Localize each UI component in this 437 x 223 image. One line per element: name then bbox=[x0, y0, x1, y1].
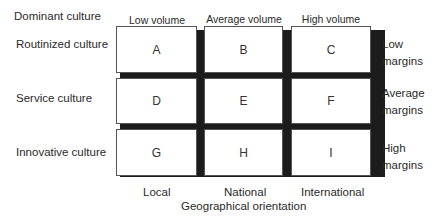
cell-e: E bbox=[204, 78, 283, 124]
cell-i: I bbox=[291, 129, 371, 176]
cell-b: B bbox=[204, 26, 283, 73]
cell-f: F bbox=[291, 78, 371, 124]
row-label-routinized: Routinized culture bbox=[16, 38, 108, 50]
margin-label-low-line2: margins bbox=[382, 53, 423, 70]
cell-h: H bbox=[204, 129, 283, 176]
margin-label-high-line1: High bbox=[382, 140, 423, 157]
row-label-service: Service culture bbox=[16, 92, 92, 104]
geo-label-national: National bbox=[224, 186, 266, 198]
cell-a: A bbox=[116, 26, 197, 73]
margin-label-low: Low margins bbox=[382, 36, 423, 70]
row-label-innovative: Innovative culture bbox=[16, 146, 106, 158]
cell-g: G bbox=[116, 129, 197, 176]
margin-label-average-line2: margins bbox=[382, 102, 425, 119]
margin-label-average-line1: Average bbox=[382, 85, 425, 102]
column-header-low-volume: Low volume bbox=[112, 14, 202, 26]
geo-axis-title: Geographical orientation bbox=[181, 200, 306, 212]
column-header-high-volume: High volume bbox=[286, 13, 376, 25]
margin-label-high: High margins bbox=[382, 140, 423, 174]
geo-label-international: International bbox=[301, 186, 364, 198]
cell-d: D bbox=[116, 78, 197, 124]
geo-label-local: Local bbox=[143, 186, 171, 198]
margin-label-average: Average margins bbox=[382, 85, 425, 119]
row-axis-title: Dominant culture bbox=[14, 10, 101, 22]
margin-label-low-line1: Low bbox=[382, 36, 423, 53]
column-header-average-volume: Average volume bbox=[199, 13, 289, 25]
cell-c: C bbox=[291, 26, 371, 73]
margin-label-high-line2: margins bbox=[382, 157, 423, 174]
